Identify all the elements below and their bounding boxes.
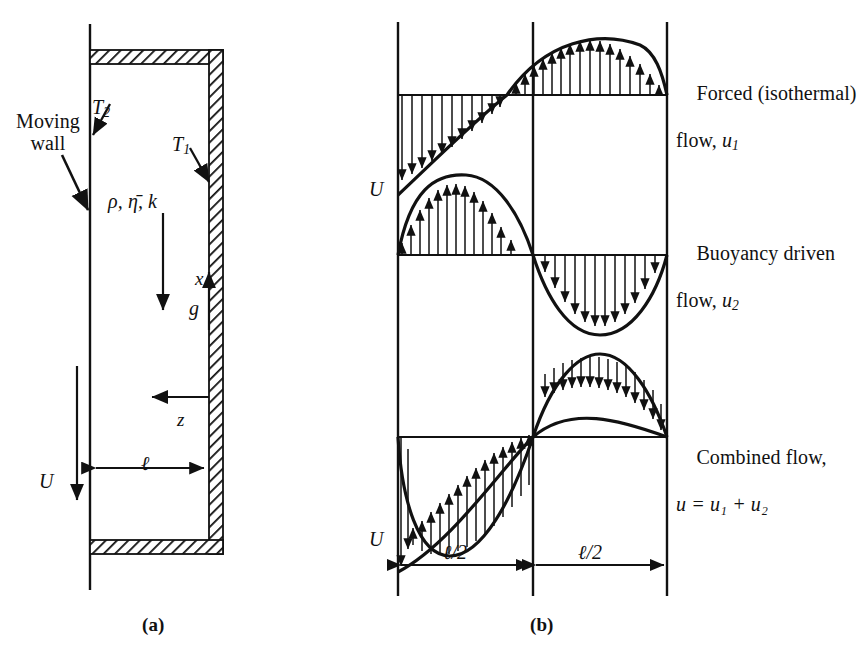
legend-combined-flow-line2: u = u₁ + u₂: [676, 493, 827, 517]
z-axis-label: z: [177, 409, 185, 431]
stationary-wall-right: [209, 50, 223, 554]
wall-velocity-label-panel-a: U: [39, 470, 54, 494]
t1-subscript: 1: [183, 142, 190, 157]
forced-flow-down-arrows: [402, 95, 500, 180]
panel-a-caption: (a): [142, 614, 164, 636]
legend-forced-flow-line2: flow, u1: [676, 129, 857, 154]
half-gap-label-left: ℓ/2: [443, 541, 467, 565]
t1-symbol: T: [172, 133, 183, 155]
legend-forced-flow-symbol: u: [722, 129, 732, 151]
legend-buoyancy-flow-line2: flow, u2: [676, 289, 835, 314]
t1-leader-arrow: [190, 148, 209, 182]
half-gap-label-right: ℓ/2: [578, 541, 602, 565]
legend-buoyancy-flow-subscript: 2: [732, 298, 739, 313]
temperature-t1-label: T1: [172, 133, 190, 158]
gap-width-label: ℓ: [141, 452, 149, 476]
legend-combined-flow: Combined flow, u = u₁ + u₂: [676, 422, 827, 564]
combined-up-arrows: [413, 435, 529, 555]
gravity-label: g: [189, 297, 199, 321]
forced-flow-up-arrows: [516, 40, 659, 95]
panel-b-caption: (b): [530, 614, 554, 636]
stationary-wall-bottom: [90, 540, 223, 554]
panel-b-group: [398, 22, 667, 596]
legend-buoyancy-flow: Buoyancy driven flow, u2: [676, 218, 835, 361]
legend-buoyancy-flow-symbol: u: [722, 289, 732, 311]
t2-subscript: 2: [103, 105, 110, 120]
t2-symbol: T: [92, 96, 103, 118]
x-axis-label: x: [195, 268, 204, 290]
legend-buoyancy-flow-prefix: flow,: [676, 289, 722, 311]
legend-combined-flow-line1: Combined flow,: [696, 446, 826, 468]
legend-forced-flow-subscript: 1: [732, 138, 739, 153]
fluid-properties-label: ρ, η̄, k: [108, 190, 157, 214]
wall-velocity-label-combined: U: [369, 528, 384, 552]
temperature-t2-label: T2: [92, 96, 110, 121]
moving-wall-label: Moving wall: [2, 110, 94, 155]
legend-forced-flow: Forced (isothermal) flow, u1: [676, 58, 857, 201]
legend-forced-flow-prefix: flow,: [676, 129, 722, 151]
wall-velocity-label-forced: U: [369, 178, 384, 202]
stationary-wall-top: [90, 50, 223, 64]
moving-wall-leader-arrow: [62, 155, 88, 210]
figure-container: Moving wall T2 T1 ρ, η̄, k g x z U ℓ (a)…: [0, 0, 860, 656]
legend-forced-flow-line1: Forced (isothermal): [696, 82, 856, 104]
buoyancy-up-arrows: [402, 184, 511, 255]
legend-buoyancy-flow-line1: Buoyancy driven: [696, 242, 835, 264]
